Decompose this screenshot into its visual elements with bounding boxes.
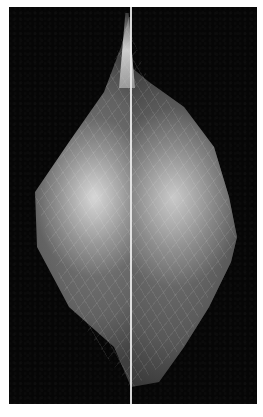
medical-image-frame xyxy=(9,7,257,404)
figure-caption-cropped xyxy=(9,408,257,417)
center-divider-line xyxy=(130,7,132,404)
